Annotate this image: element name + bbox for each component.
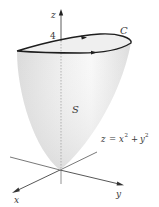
y-axis [60,170,119,184]
equation-plus: + [131,134,138,144]
equation-y-exponent: 2 [145,132,149,138]
x-axis-arrow-icon [12,188,20,193]
z-axis-label: z [50,10,56,20]
equation-lhs: z [100,134,106,144]
y-axis-arrow-icon [117,182,124,186]
equation-x: x [119,134,124,144]
paraboloid-figure: z 4 C S x y z = x 2 + y 2 [0,0,159,207]
x-axis-label: x [14,195,19,205]
height-label: 4 [50,31,56,41]
surface-label: S [72,104,79,115]
equation-equals: = [109,134,116,144]
surface-s [17,34,131,170]
y-axis-label: y [115,189,122,199]
x-axis [16,170,60,191]
curve-label: C [120,25,128,36]
z-axis-arrow-icon [59,9,63,16]
equation-x-exponent: 2 [125,132,129,138]
equation-label: z = x 2 + y 2 [100,132,149,144]
axes-front [12,170,124,193]
